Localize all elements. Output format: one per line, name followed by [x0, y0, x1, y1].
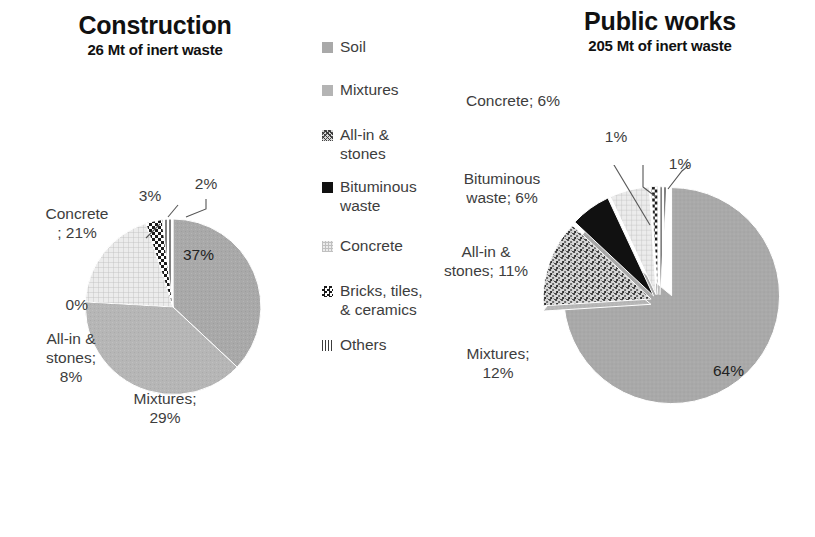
legend-label-concrete: Concrete — [340, 237, 403, 256]
left-label-mixtures: Mixtures; 29% — [110, 390, 220, 428]
chart-canvas: Construction 26 Mt of inert waste Public… — [0, 0, 815, 537]
right-chart-title: Public works — [520, 8, 800, 35]
left-chart-subtitle: 26 Mt of inert waste — [20, 42, 290, 58]
right-label-bituminous-waste: Bituminous waste; 6% — [437, 170, 567, 208]
legend-label-bricks-tiles-ceramics: Bricks, tiles, & ceramics — [340, 282, 423, 320]
right-pie-chart — [510, 165, 815, 465]
legend-label-mixtures: Mixtures — [340, 81, 399, 100]
legend-item-all-in-stones[interactable]: All-in & stones — [322, 126, 462, 164]
right-chart-subtitle: 205 Mt of inert waste — [520, 38, 800, 54]
left-chart-title: Construction — [20, 12, 290, 39]
legend-label-soil: Soil — [340, 38, 366, 57]
legend-item-bricks-tiles-ceramics[interactable]: Bricks, tiles, & ceramics — [322, 282, 462, 320]
legend-item-others[interactable]: Others — [322, 336, 462, 355]
legend-swatch-bituminous-waste-icon — [322, 182, 333, 193]
left-leader-others — [186, 199, 206, 217]
right-label-all-in-stones: All-in & stones; 11% — [420, 243, 552, 281]
legend-swatch-concrete-icon — [322, 241, 333, 252]
legend-item-mixtures[interactable]: Mixtures — [322, 81, 462, 100]
right-chart-title-block: Public works 205 Mt of inert waste — [520, 8, 800, 53]
legend-item-soil[interactable]: Soil — [322, 38, 462, 57]
left-leader-bricks — [168, 205, 178, 217]
legend-swatch-bricks-tiles-ceramics-icon — [322, 286, 333, 297]
legend-label-all-in-stones: All-in & stones — [340, 126, 389, 164]
left-label-others: 2% — [186, 175, 226, 194]
left-label-concrete: Concrete ; 21% — [22, 205, 132, 243]
right-label-mixtures: Mixtures; 12% — [443, 345, 553, 383]
legend-swatch-mixtures-icon — [322, 85, 333, 96]
right-label-bricks-tiles-ceramics: 1% — [596, 128, 636, 147]
legend-label-others: Others — [340, 336, 387, 355]
right-label-concrete: Concrete; 6% — [466, 92, 606, 111]
left-label-soil: 37% — [183, 246, 243, 265]
legend-label-bituminous-waste: Bituminous waste — [340, 178, 417, 216]
right-slice-others[interactable] — [660, 187, 667, 295]
left-label-bricks-tiles-ceramics: 3% — [130, 187, 170, 206]
legend-swatch-all-in-stones-icon — [322, 130, 333, 141]
left-label-bituminous-waste: 0% — [38, 296, 88, 315]
left-label-all-in-stones: All-in & stones; 8% — [28, 330, 114, 387]
right-label-others: 1% — [660, 155, 700, 174]
left-chart-title-block: Construction 26 Mt of inert waste — [20, 12, 290, 57]
right-slice-others-group[interactable] — [660, 187, 667, 295]
legend-swatch-soil-icon — [322, 42, 333, 53]
right-label-soil: 64% — [713, 362, 773, 381]
legend-swatch-others-icon — [322, 340, 333, 351]
